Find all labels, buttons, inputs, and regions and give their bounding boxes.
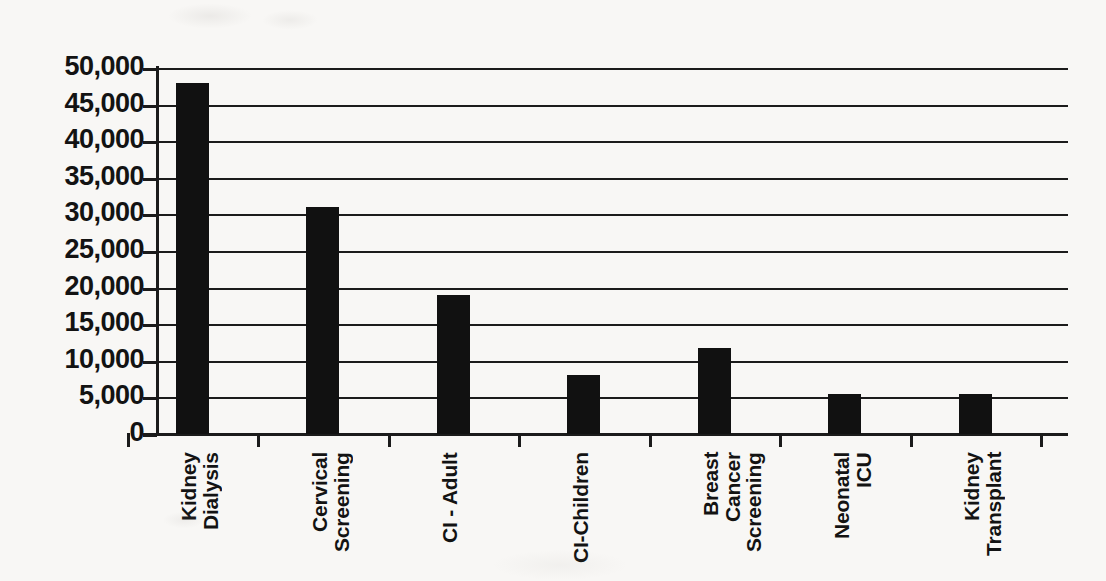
bar (959, 394, 992, 434)
bar (567, 375, 600, 434)
bar (828, 394, 861, 434)
x-axis-category-label: CI-Children (570, 452, 690, 572)
x-axis-tick (910, 433, 913, 447)
x-axis-tick (388, 433, 391, 447)
y-axis-tick (143, 434, 157, 437)
x-axis-tick (649, 433, 652, 447)
x-axis-tick (1040, 433, 1043, 447)
x-axis-category-label: Kidney Dialysis (178, 452, 298, 572)
x-axis-category-label: Cervical Screening (309, 452, 429, 572)
x-axis-category-label: CI - Adult (439, 452, 559, 572)
x-axis-tick (127, 433, 130, 447)
bar-chart: 50,00045,00040,00035,00030,00025,00020,0… (0, 0, 1106, 581)
x-axis-category-label: Kidney Transplant (961, 452, 1081, 572)
bars-layer (0, 0, 1106, 434)
bar (176, 83, 209, 434)
x-axis-category-label: Breast Cancer Screening (700, 452, 820, 572)
x-axis-tick (779, 433, 782, 447)
bar (698, 348, 731, 434)
x-axis-tick (518, 433, 521, 447)
x-axis-category-label: Neonatal ICU (831, 452, 951, 572)
bar (437, 295, 470, 434)
x-axis-tick (257, 433, 260, 447)
bar (306, 207, 339, 434)
